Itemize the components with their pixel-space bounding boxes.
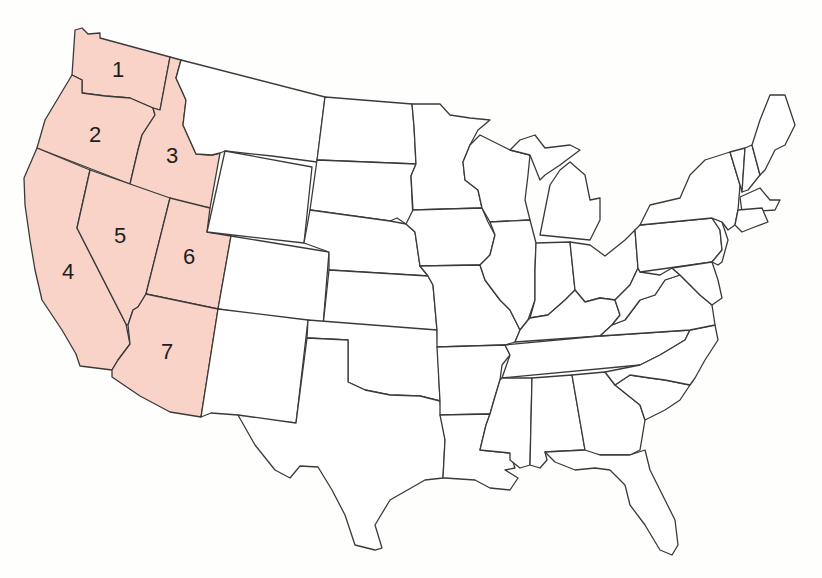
region-label-4: 4 bbox=[62, 261, 74, 283]
region-label-6: 6 bbox=[183, 246, 195, 268]
region-label-2: 2 bbox=[89, 124, 101, 146]
region-label-1: 1 bbox=[112, 59, 124, 81]
state-connecticut-rhode-island bbox=[735, 208, 768, 232]
region-label-3: 3 bbox=[166, 145, 178, 167]
region-label-7: 7 bbox=[161, 341, 173, 363]
state-kansas bbox=[323, 270, 437, 330]
us-map: 1 2 3 4 5 6 7 bbox=[0, 0, 822, 578]
state-maine bbox=[752, 95, 795, 175]
state-iowa bbox=[406, 208, 495, 266]
state-montana bbox=[176, 60, 325, 162]
state-north-dakota bbox=[317, 97, 416, 164]
state-wyoming bbox=[207, 151, 312, 243]
region-label-5: 5 bbox=[114, 225, 126, 247]
map-svg bbox=[0, 0, 822, 578]
state-new-mexico bbox=[201, 309, 308, 423]
state-new-york bbox=[640, 152, 740, 230]
state-florida bbox=[545, 450, 678, 555]
